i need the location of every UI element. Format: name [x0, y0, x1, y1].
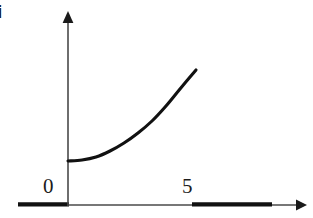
panel-letter-label: i	[0, 2, 2, 21]
x-tick-label-5: 5	[182, 176, 193, 197]
figure-container: i 0 5	[0, 0, 313, 218]
x-tick-label-0: 0	[43, 176, 54, 197]
